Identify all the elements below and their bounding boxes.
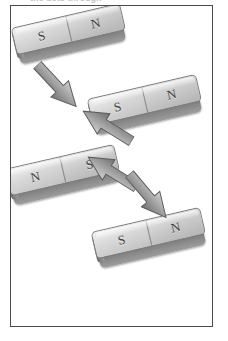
figure-stage: S N S N N S <box>11 6 212 326</box>
frame-inner-edge <box>210 6 212 326</box>
magnet-1: S N <box>11 5 128 61</box>
arrow-down-right-icon <box>28 56 87 116</box>
caption-text: the dots through <box>30 0 160 3</box>
figure-panel: S N S N N S <box>10 5 213 327</box>
